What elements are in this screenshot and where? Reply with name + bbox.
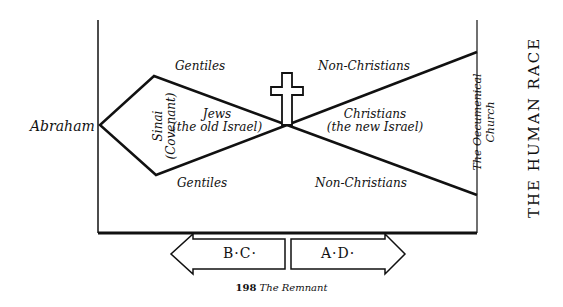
human-race-title: THE HUMAN RACE (525, 38, 545, 218)
cross-icon (271, 73, 303, 125)
old-israel-text: (the old Israel) (172, 121, 262, 134)
caption-title: The Remnant (260, 282, 328, 293)
page-caption: 198 The Remnant (0, 282, 563, 293)
page-number: 198 (235, 282, 256, 293)
gentiles-upper-label: Gentiles (175, 60, 225, 73)
church-text: Church (484, 67, 497, 177)
bc-label: B·C· (195, 245, 285, 261)
non-christians-upper-label: Non-Christians (318, 60, 410, 73)
gentiles-lower-label: Gentiles (177, 177, 227, 190)
non-christians-lower-label: Non-Christians (315, 177, 407, 190)
abraham-label: Abraham (30, 120, 95, 133)
oecumenical-church-label: The Oecumenical Church (471, 67, 499, 177)
jews-label: Jews (the old Israel) (172, 108, 262, 134)
ad-label: A·D· (293, 245, 383, 261)
new-israel-text: (the new Israel) (325, 121, 425, 134)
oecumenical-text: The Oecumenical (471, 67, 484, 177)
christians-label: Christians (the new Israel) (325, 108, 425, 134)
